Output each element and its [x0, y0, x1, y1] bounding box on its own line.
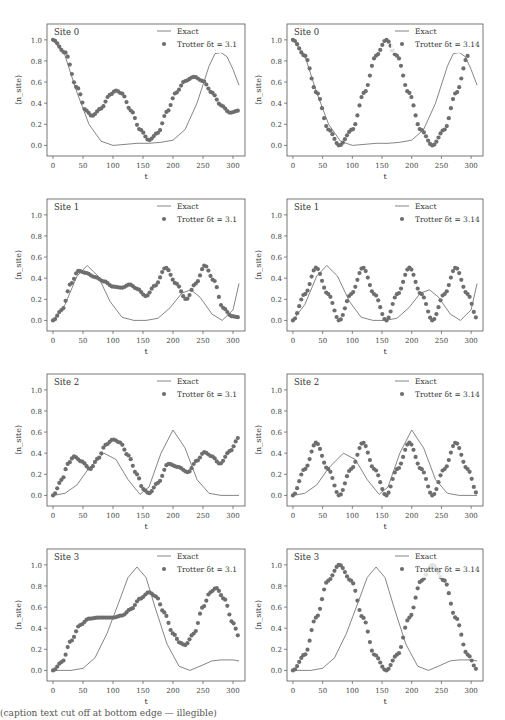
- trotter-marker: [91, 464, 95, 468]
- trotter-marker: [378, 480, 382, 484]
- trotter-marker: [368, 458, 372, 462]
- trotter-marker: [461, 642, 465, 646]
- x-tick-label: 0: [51, 337, 55, 345]
- y-tick-label: 0.6: [31, 254, 43, 262]
- trotter-marker: [320, 597, 324, 601]
- trotter-marker: [353, 122, 357, 126]
- trotter-marker: [305, 289, 309, 293]
- trotter-marker: [308, 457, 312, 461]
- trotter-marker: [357, 103, 361, 107]
- y-tick-label: 0.0: [271, 142, 282, 150]
- trotter-marker: [474, 667, 478, 671]
- trotter-marker: [370, 649, 374, 653]
- trotter-marker: [196, 621, 200, 625]
- trotter-marker: [436, 480, 440, 484]
- legend-marker-swatch: [400, 42, 404, 46]
- y-tick-label: 0.4: [31, 450, 43, 458]
- trotter-marker: [293, 491, 297, 495]
- x-tick-label: 0: [51, 162, 55, 170]
- trotter-marker: [297, 479, 301, 483]
- trotter-marker: [204, 264, 208, 268]
- trotter-marker: [310, 628, 314, 632]
- x-tick-label: 250: [435, 512, 448, 520]
- trotter-marker: [198, 455, 202, 459]
- trotter-marker: [403, 83, 407, 87]
- trotter-marker: [55, 314, 59, 318]
- trotter-marker: [204, 82, 208, 86]
- trotter-marker: [322, 116, 326, 120]
- trotter-marker: [366, 83, 370, 87]
- trotter-marker: [204, 599, 208, 603]
- x-tick-label: 100: [346, 512, 359, 520]
- trotter-marker: [160, 121, 164, 125]
- legend-label-exact: Exact: [415, 552, 436, 561]
- trotter-marker: [312, 619, 316, 623]
- trotter-marker: [236, 436, 240, 440]
- legend: ExactTrotter δt = 3.1: [153, 200, 243, 228]
- trotter-marker: [297, 304, 301, 308]
- trotter-marker: [127, 453, 131, 457]
- legend-marker-swatch: [162, 217, 166, 221]
- x-tick-label: 100: [346, 687, 359, 695]
- x-tick-label: 150: [136, 337, 149, 345]
- trotter-marker: [459, 76, 463, 80]
- trotter-marker: [409, 268, 413, 272]
- plot-area: [51, 38, 240, 146]
- trotter-marker: [328, 295, 332, 299]
- y-tick-label: 0.2: [31, 296, 42, 304]
- trotter-marker: [341, 141, 345, 145]
- trotter-marker: [380, 312, 384, 316]
- x-tick-label: 150: [136, 162, 149, 170]
- trotter-marker: [387, 491, 391, 495]
- trotter-marker: [436, 305, 440, 309]
- trotter-marker: [66, 645, 70, 649]
- trotter-marker: [389, 484, 393, 488]
- trotter-marker: [318, 447, 322, 451]
- trotter-marker: [66, 289, 70, 293]
- trotter-marker: [409, 613, 413, 617]
- trotter-marker: [339, 492, 343, 496]
- y-tick-label: 1.0: [31, 387, 42, 395]
- trotter-marker: [434, 312, 438, 316]
- chart-panel-site0-dt3.14: 0.00.20.40.60.81.0050100150200250300t⟨n_…: [254, 24, 483, 181]
- trotter-marker: [434, 140, 438, 144]
- trotter-marker: [198, 612, 202, 616]
- trotter-marker: [397, 291, 401, 295]
- plot-area: [291, 38, 477, 148]
- x-tick-label: 200: [166, 687, 179, 695]
- trotter-marker: [411, 103, 415, 107]
- trotter-marker: [378, 48, 382, 52]
- legend: ExactTrotter δt = 3.14: [391, 550, 481, 578]
- trotter-marker: [422, 130, 426, 134]
- y-tick-label: 0.4: [271, 275, 283, 283]
- trotter-marker: [424, 134, 428, 138]
- y-tick-label: 0.6: [31, 429, 43, 437]
- trotter-marker: [447, 591, 451, 595]
- trotter-marker: [131, 464, 135, 468]
- panel-title: Site 2: [294, 377, 319, 387]
- x-tick-label: 50: [79, 512, 88, 520]
- trotter-marker: [232, 621, 236, 625]
- y-tick-label: 0.8: [271, 408, 282, 416]
- trotter-marker: [403, 448, 407, 452]
- trotter-marker: [162, 610, 166, 614]
- trotter-marker: [310, 450, 314, 454]
- y-tick-label: 0.2: [271, 296, 282, 304]
- y-tick-label: 0.0: [31, 667, 42, 675]
- x-tick-label: 0: [291, 687, 295, 695]
- x-axis-label: t: [144, 347, 148, 356]
- trotter-marker: [359, 95, 363, 99]
- trotter-marker: [380, 487, 384, 491]
- x-tick-label: 200: [405, 687, 418, 695]
- trotter-marker: [368, 283, 372, 287]
- panel-title: Site 3: [294, 552, 319, 562]
- trotter-marker: [66, 55, 70, 59]
- trotter-marker: [328, 470, 332, 474]
- trotter-marker: [380, 43, 384, 47]
- exact-line: [53, 266, 239, 321]
- trotter-marker: [447, 283, 451, 287]
- trotter-marker: [171, 96, 175, 100]
- trotter-marker: [53, 491, 57, 495]
- trotter-marker: [416, 586, 420, 590]
- x-tick-label: 50: [318, 687, 327, 695]
